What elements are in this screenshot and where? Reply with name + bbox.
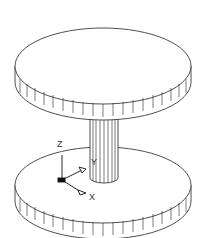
z-axis-label: Z	[57, 140, 63, 149]
x-axis-label: X	[89, 193, 95, 202]
y-axis-label: Y	[91, 158, 97, 167]
spool-diagram: Z Y X	[0, 0, 205, 238]
shaft-cylinder	[90, 115, 118, 183]
top-disc	[15, 28, 191, 120]
spool-wireframe	[0, 0, 205, 238]
